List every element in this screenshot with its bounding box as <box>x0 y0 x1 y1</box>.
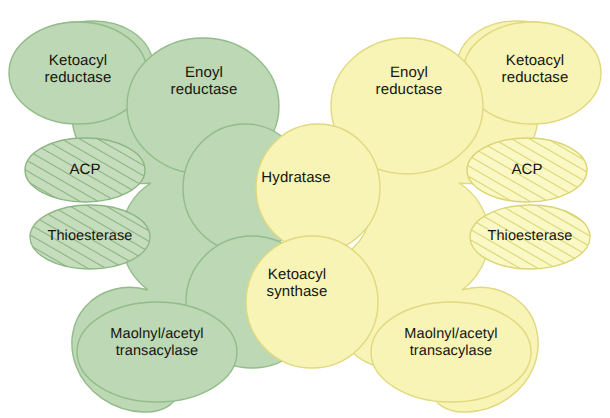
left-transacylase-lobe <box>77 302 237 402</box>
right-subunit-group <box>246 21 601 412</box>
right-transacylase-lobe <box>371 302 531 402</box>
right-acp-lobe <box>467 138 587 202</box>
left-thioesterase-lobe <box>30 205 150 269</box>
fas-dimer-svg <box>0 0 610 418</box>
right-hydratase-lobe <box>256 124 380 252</box>
right-ketoacyl-reductase-lobe <box>463 22 601 124</box>
left-acp-lobe <box>25 138 145 202</box>
right-ketoacyl-synthase-lobe <box>246 236 378 368</box>
right-thioesterase-lobe <box>470 205 590 269</box>
left-ketoacyl-reductase-lobe <box>9 22 147 124</box>
diagram-canvas: Ketoacyl reductase Enoyl reductase ACP T… <box>0 0 610 418</box>
